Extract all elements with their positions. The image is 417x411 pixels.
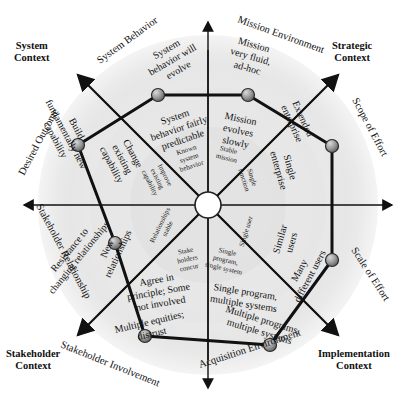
node-system-behavior[interactable] — [152, 89, 165, 102]
corner-system-context: System Context — [14, 40, 50, 64]
corner-strategic-context: Strategic Context — [332, 40, 372, 64]
node-scale-of-effort[interactable] — [326, 254, 339, 267]
node-mission-environment[interactable] — [242, 89, 255, 102]
corner-implementation-context: Implementation Context — [318, 348, 390, 372]
hub — [195, 192, 221, 218]
radar-diagram: System Behavior Mission Environment Scop… — [0, 0, 417, 411]
node-scope-of-effort[interactable] — [326, 140, 339, 153]
corner-stakeholder-context: Stakeholder Context — [6, 348, 60, 372]
